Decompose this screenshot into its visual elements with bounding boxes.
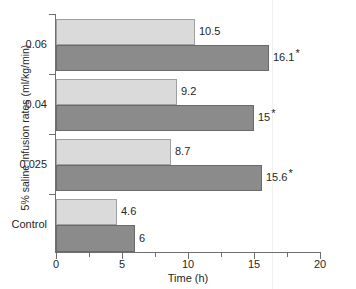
bar-value-light-0.025: 8.7 — [175, 146, 190, 157]
significance-star-icon: * — [288, 167, 292, 179]
bar-value-dark-0.025: 15.6* — [266, 172, 293, 183]
bar-dark-0.06 — [56, 45, 269, 71]
scan-artifact-line — [272, 0, 273, 289]
x-axis-label-0: 0 — [41, 259, 71, 270]
x-axis-label-10: 10 — [173, 259, 203, 270]
bar-light-0.025 — [56, 139, 171, 165]
y-axis-title: 5% saline infusion rates (ml/kg/min) — [20, 18, 31, 238]
x-axis-title: Time (h) — [56, 272, 320, 284]
bar-dark-0.04 — [56, 105, 254, 131]
x-axis-tick-minor — [89, 253, 90, 257]
bar-dark-0.025 — [56, 165, 262, 191]
x-axis-tick-minor — [287, 253, 288, 257]
x-axis-label-20: 20 — [305, 259, 335, 270]
bar-value-dark-0.04: 15* — [258, 112, 276, 123]
x-axis-tick-minor — [221, 253, 222, 257]
bar-value-dark-0.06: 16.1* — [273, 52, 300, 63]
bar-value-light-0.04: 9.2 — [181, 86, 196, 97]
bar-value-light-control: 4.6 — [121, 206, 136, 217]
x-axis-tick-minor — [155, 253, 156, 257]
bar-chart-figure: 10.5 16.1* 9.2 15* 8.7 15.6* 4.6 6 0.06 … — [0, 0, 356, 289]
significance-star-icon: * — [271, 107, 275, 119]
bar-light-0.04 — [56, 79, 177, 105]
x-axis-label-5: 5 — [107, 259, 137, 270]
bar-value-dark-control: 6 — [139, 233, 145, 244]
bar-value-light-0.06: 10.5 — [199, 26, 220, 37]
bar-light-control — [56, 199, 117, 225]
y-axis-tick — [49, 74, 56, 75]
bar-dark-control — [56, 225, 135, 252]
significance-star-icon: * — [295, 47, 299, 59]
x-axis-label-15: 15 — [239, 259, 269, 270]
bar-light-0.06 — [56, 19, 195, 45]
y-axis-tick — [49, 194, 56, 195]
y-axis-tick — [49, 14, 56, 15]
y-axis-tick — [49, 134, 56, 135]
